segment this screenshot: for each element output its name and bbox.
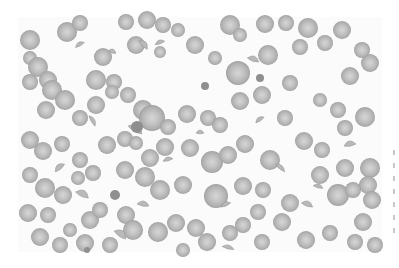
red-blood-cell: [186, 36, 204, 54]
red-blood-cell: [345, 182, 361, 198]
red-blood-cell: [72, 15, 88, 31]
red-blood-cell: [120, 87, 136, 103]
red-blood-cell: [254, 234, 270, 250]
red-blood-cell: [258, 45, 278, 65]
spherocyte: [201, 82, 209, 90]
red-blood-cell: [231, 92, 249, 110]
red-blood-cell: [337, 120, 353, 136]
red-blood-cell: [297, 231, 315, 249]
red-blood-cell: [54, 186, 72, 204]
red-blood-cell: [208, 51, 222, 65]
red-blood-cell: [20, 30, 40, 50]
red-blood-cell: [98, 136, 116, 154]
red-blood-cell: [40, 207, 56, 223]
red-blood-cell: [54, 136, 70, 152]
red-blood-cell: [31, 228, 49, 246]
red-blood-cell: [260, 150, 280, 170]
red-blood-cell: [178, 105, 196, 123]
red-blood-cell: [176, 243, 190, 257]
red-blood-cell: [314, 142, 330, 158]
red-blood-cell: [174, 176, 192, 194]
red-blood-cell: [118, 14, 134, 30]
red-blood-cell: [333, 21, 351, 39]
red-blood-cell: [250, 204, 266, 220]
spherocyte: [84, 247, 90, 253]
spherocyte: [131, 121, 143, 133]
red-blood-cell: [154, 46, 166, 58]
red-blood-cell: [295, 132, 313, 150]
red-blood-cell: [71, 171, 85, 185]
red-blood-cell: [129, 136, 143, 150]
red-blood-cell: [313, 93, 327, 107]
red-blood-cell: [171, 23, 185, 37]
red-blood-cell: [138, 11, 156, 29]
red-blood-cell: [87, 96, 105, 114]
red-blood-cell: [22, 74, 38, 90]
red-blood-cell: [52, 237, 68, 253]
red-blood-cell: [292, 39, 308, 55]
red-blood-cell: [212, 117, 228, 133]
red-blood-cell: [298, 18, 318, 38]
spherocyte: [110, 190, 120, 200]
red-blood-cell: [37, 101, 55, 119]
red-blood-cell: [34, 142, 52, 160]
red-blood-cell: [92, 202, 108, 218]
red-blood-cell: [282, 75, 298, 91]
red-blood-cell: [160, 119, 176, 135]
red-blood-cell: [181, 139, 199, 157]
red-blood-cell: [253, 86, 271, 104]
red-blood-cell: [85, 165, 101, 181]
red-blood-cell: [236, 135, 254, 153]
red-blood-cell: [360, 158, 380, 178]
red-blood-cell: [354, 213, 372, 231]
red-blood-cell: [234, 177, 252, 195]
red-blood-cell: [55, 90, 75, 110]
red-blood-cell: [63, 223, 77, 237]
red-blood-cell: [341, 67, 359, 85]
red-blood-cell: [86, 70, 106, 90]
red-blood-cell: [148, 222, 168, 242]
red-blood-cell: [311, 166, 329, 184]
red-blood-cell: [19, 204, 37, 222]
red-blood-cell: [277, 110, 293, 126]
red-blood-cell: [255, 182, 271, 198]
red-blood-cell: [330, 102, 346, 118]
red-blood-cell: [219, 146, 237, 164]
red-blood-cell: [198, 233, 216, 251]
red-blood-cell: [187, 219, 205, 237]
red-blood-cell: [347, 234, 363, 250]
red-blood-cell: [273, 213, 291, 231]
red-blood-cell: [155, 17, 171, 33]
blood-smear-micrograph: [0, 0, 399, 268]
red-blood-cell: [322, 225, 338, 241]
red-blood-cell: [226, 61, 250, 85]
red-blood-cell: [156, 138, 174, 156]
red-blood-cell: [355, 107, 375, 127]
red-blood-cell: [281, 194, 299, 212]
red-blood-cell: [72, 110, 88, 126]
red-blood-cell: [123, 220, 143, 240]
red-blood-cell: [336, 159, 354, 177]
spherocyte: [256, 74, 264, 82]
red-blood-cell: [235, 217, 251, 233]
cropped-edge-marks: [392, 150, 396, 250]
red-blood-cell: [22, 167, 38, 183]
red-blood-cell: [150, 180, 170, 200]
red-blood-cell: [102, 237, 118, 253]
red-blood-cell: [141, 149, 159, 167]
red-blood-cell: [72, 152, 88, 168]
red-blood-cell: [317, 35, 333, 51]
red-blood-cell: [367, 237, 383, 253]
red-blood-cell: [256, 15, 274, 33]
red-blood-cell: [233, 28, 247, 42]
red-blood-cell: [116, 161, 134, 179]
red-blood-cell: [35, 178, 55, 198]
red-blood-cell: [105, 85, 119, 99]
red-blood-cell: [278, 15, 294, 31]
red-blood-cell: [354, 42, 370, 58]
red-blood-cell: [363, 191, 381, 209]
red-blood-cell: [167, 214, 185, 232]
